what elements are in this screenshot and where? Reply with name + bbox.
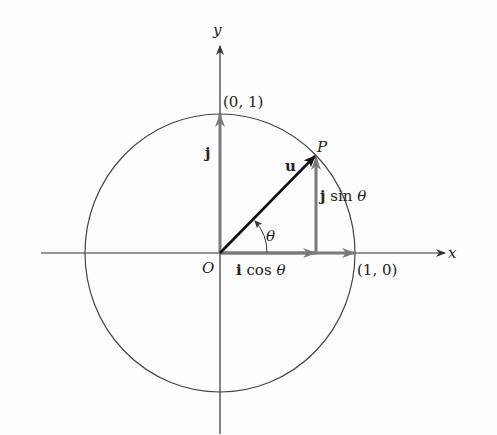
j-sin-bold: j [318,187,325,205]
i-cos-theta: θ [276,261,285,279]
u-vector-label: u [285,157,296,175]
j-sin-text: sin [325,187,357,205]
theta-label: θ [266,227,275,245]
y-intercept-label: (0, 1) [223,93,263,111]
j-sin-theta-label: j sin θ [318,187,366,205]
i-cos-theta-label: i cos θ [236,261,285,279]
x-axis-label: x [448,244,457,262]
point-p-label: P [316,138,328,156]
i-cos-text: cos [242,261,277,279]
x-intercept-label: (1, 0) [357,261,397,279]
diagram-svg: y x O (0, 1) (1, 0) P j u θ j sin θ i co… [0,0,497,435]
j-vector-label: j [203,144,210,162]
origin-label: O [202,259,214,277]
unit-circle-diagram: y x O (0, 1) (1, 0) P j u θ j sin θ i co… [0,0,497,435]
y-axis-label: y [212,21,222,39]
j-sin-theta: θ [357,187,366,205]
